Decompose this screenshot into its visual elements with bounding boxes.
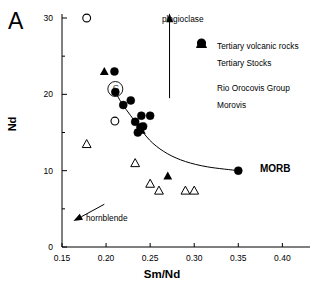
data-point xyxy=(82,140,91,148)
data-point xyxy=(110,67,118,75)
legend-item-tertiary-stocks[interactable]: Tertiary Stocks xyxy=(196,55,299,72)
data-point xyxy=(190,186,199,194)
annotation-hornblende: hornblende xyxy=(86,213,128,223)
x-tick-label: 0.20 xyxy=(98,253,115,263)
data-point xyxy=(83,14,91,22)
data-point xyxy=(146,179,155,187)
data-point xyxy=(119,101,127,109)
data-point xyxy=(131,159,140,167)
data-point xyxy=(163,172,172,180)
legend-label: Rio Orocovis Group xyxy=(217,84,290,92)
x-tick-label: 0.15 xyxy=(54,253,71,263)
x-tick-label: 0.25 xyxy=(142,253,159,263)
annotation-morb: MORB xyxy=(260,163,291,174)
annotation-plagioclase: plagioclase xyxy=(162,14,204,24)
y-tick-label: 20 xyxy=(0,89,53,99)
legend-label: Tertiary volcanic rocks xyxy=(217,42,299,50)
data-point xyxy=(146,112,154,120)
data-point xyxy=(155,186,164,194)
data-point xyxy=(127,96,135,104)
figure-panel-a: A Nd Sm/Nd C 0.150.200.250.300.350.40 01… xyxy=(0,0,324,291)
legend-label: Tertiary Stocks xyxy=(217,59,271,67)
data-point xyxy=(181,186,190,194)
legend-item-tertiary-volcanic-rocks[interactable]: Tertiary volcanic rocks xyxy=(196,38,299,55)
x-tick-label: 0.30 xyxy=(186,253,203,263)
data-point xyxy=(134,129,142,137)
y-tick-label: 0 xyxy=(0,242,53,252)
data-point xyxy=(234,167,242,175)
y-tick-label: 10 xyxy=(0,166,53,176)
x-tick-label: 0.35 xyxy=(230,253,247,263)
legend-item-rio-orocovis-group[interactable]: Rio Orocovis Group xyxy=(196,80,299,97)
legend-label: Morovis xyxy=(217,101,246,109)
highlight-label: C xyxy=(113,83,119,92)
data-point xyxy=(100,67,109,75)
legend: Tertiary volcanic rocks Tertiary Stocks … xyxy=(196,38,299,114)
x-tick-label: 0.40 xyxy=(274,253,291,263)
legend-item-morovis[interactable]: Morovis xyxy=(196,97,299,114)
y-tick-label: 30 xyxy=(0,13,53,23)
data-point xyxy=(137,112,145,120)
data-point xyxy=(111,117,119,125)
